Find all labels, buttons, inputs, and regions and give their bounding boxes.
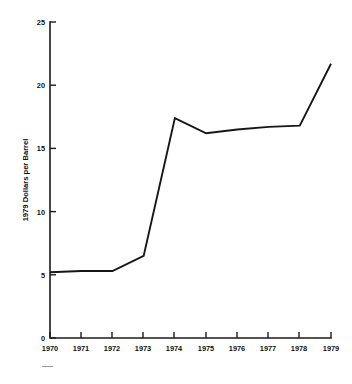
y-tick-label-25: 25 xyxy=(37,18,45,27)
y-tick-label-15: 15 xyxy=(37,144,45,153)
x-tick-label-1975: 1975 xyxy=(198,344,214,353)
y-axis-title: 1979 Dollars per Barrel xyxy=(21,139,30,222)
y-tick-label-5: 5 xyxy=(41,271,45,280)
y-axis-ticks xyxy=(50,22,56,338)
x-axis-ticks xyxy=(50,332,331,338)
chart-plot-area: 1979 Dollars per Barrel 0 5 10 15 20 25 xyxy=(0,0,352,384)
oil-price-line-chart: 1979 Dollars per Barrel 0 5 10 15 20 25 xyxy=(0,0,352,384)
y-tick-label-20: 20 xyxy=(37,81,45,90)
caption-rule xyxy=(42,366,53,367)
x-axis-tick-labels: 1970 1971 1972 1973 1974 1975 1976 1977 … xyxy=(42,344,339,353)
x-tick-label-1979: 1979 xyxy=(323,344,339,353)
axis-spines xyxy=(50,22,331,338)
x-tick-label-1977: 1977 xyxy=(260,344,276,353)
x-tick-label-1972: 1972 xyxy=(104,344,120,353)
price-series-line xyxy=(50,64,331,273)
x-tick-label-1976: 1976 xyxy=(229,344,245,353)
x-tick-label-1970: 1970 xyxy=(42,344,58,353)
x-tick-label-1978: 1978 xyxy=(291,344,307,353)
x-tick-label-1971: 1971 xyxy=(73,344,89,353)
y-tick-label-10: 10 xyxy=(37,208,45,217)
y-tick-label-0: 0 xyxy=(41,334,45,343)
y-axis-tick-labels: 0 5 10 15 20 25 xyxy=(37,18,45,343)
figure-caption-strip xyxy=(0,362,352,384)
x-tick-label-1974: 1974 xyxy=(166,344,183,353)
x-tick-label-1973: 1973 xyxy=(135,344,151,353)
